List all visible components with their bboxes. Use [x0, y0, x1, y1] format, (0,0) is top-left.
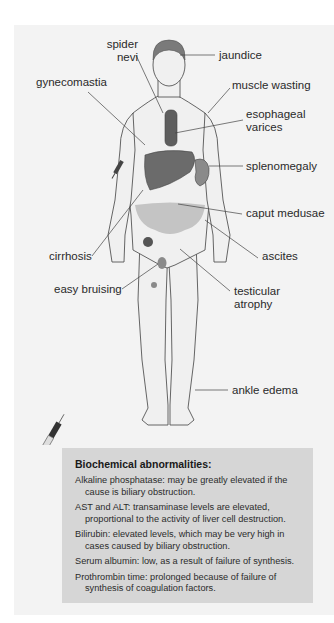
label-ascites: ascites: [262, 250, 298, 263]
label-line: spider: [96, 38, 138, 51]
label-gynecomastia: gynecomastia: [36, 76, 107, 89]
syringe-icon: [36, 412, 69, 445]
info-item-bilirubin: Bilirubin: elevated levels, which may be…: [75, 529, 305, 552]
label-line: esophageal: [246, 108, 305, 121]
label-testicular-atrophy: testicular atrophy: [234, 285, 280, 311]
bruise-3: [151, 282, 157, 288]
info-item-prothrombin-time: Prothrombin time: prolonged because of f…: [75, 572, 305, 595]
esophagus: [165, 110, 177, 146]
body-outline: [108, 44, 230, 425]
body-diagram: [0, 0, 334, 445]
label-line: atrophy: [234, 298, 280, 311]
label-splenomegaly: splenomegaly: [246, 160, 317, 173]
label-esophageal-varices: esophageal varices: [246, 108, 305, 134]
biochemical-abnormalities-box: Biochemical abnormalities: Alkaline phos…: [62, 448, 313, 603]
label-caput-medusae: caput medusae: [246, 207, 325, 220]
label-easy-bruising: easy bruising: [54, 283, 122, 296]
label-line: nevi: [96, 51, 138, 64]
label-cirrhosis: cirrhosis: [49, 250, 92, 263]
label-line: testicular: [234, 285, 280, 298]
label-spider-nevi: spider nevi: [96, 38, 138, 64]
bruise-1: [143, 237, 153, 247]
info-item-alkaline-phosphatase: Alkaline phosphatase: may be greatly ele…: [75, 475, 305, 498]
info-item-ast-alt: AST and ALT: transaminase levels are ele…: [75, 502, 305, 525]
info-title: Biochemical abnormalities:: [75, 458, 305, 470]
info-item-serum-albumin: Serum albumin: low, as a result of failu…: [75, 556, 305, 568]
bruise-2: [158, 257, 167, 269]
label-ankle-edema: ankle edema: [232, 384, 298, 397]
label-jaundice: jaundice: [219, 49, 262, 62]
label-line: varices: [246, 121, 305, 134]
label-muscle-wasting: muscle wasting: [232, 79, 311, 92]
